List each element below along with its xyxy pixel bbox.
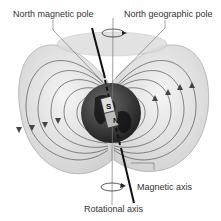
north-magnetic-pole-label: North magnetic pole <box>13 9 94 19</box>
magnet-n-pole-label: N <box>113 116 119 126</box>
magnet-s-pole-label: S <box>106 102 111 112</box>
magnetic-axis-label: Magnetic axis <box>137 182 192 192</box>
rotational-axis-label: Rotational axis <box>84 204 143 214</box>
north-geographic-pole-label: North geographic pole <box>124 9 213 19</box>
earth-magnetic-field-diagram: North magnetic pole North geographic pol… <box>0 0 221 221</box>
